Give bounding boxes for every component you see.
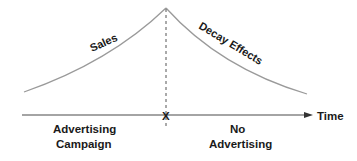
time-axis-arrowhead xyxy=(304,112,313,118)
no-advertising-label-line1: No xyxy=(230,123,245,135)
no-advertising-label-line2: Advertising xyxy=(209,138,272,150)
advertising-campaign-label-line1: Advertising xyxy=(53,123,116,135)
advertising-decay-diagram: Sales Decay Effects Time X Advertising C… xyxy=(0,0,357,161)
time-axis-label: Time xyxy=(317,110,344,122)
advertising-campaign-label-line2: Campaign xyxy=(56,138,112,150)
decay-effects-label: Decay Effects xyxy=(197,19,265,66)
transition-marker: X xyxy=(162,110,170,122)
sales-label: Sales xyxy=(88,31,119,54)
